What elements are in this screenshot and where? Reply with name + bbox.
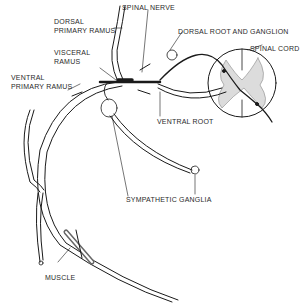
label-sympathetic-ganglia: SYMPATHETIC GANGLIA bbox=[126, 195, 212, 204]
spinal-cord-shape bbox=[208, 49, 276, 117]
label-ventral-primary-ramus-line1: VENTRAL bbox=[11, 73, 45, 82]
label-dorsal-root-ganglion: DORSAL ROOT AND GANGLION bbox=[178, 27, 289, 36]
label-visceral-ramus-line2: RAMUS bbox=[54, 57, 80, 66]
label-dorsal-primary-ramus-line1: DORSAL bbox=[54, 17, 84, 26]
spinal-nerve-diagram: SPINAL NERVE DORSAL PRIMARY RAMUS DORSAL… bbox=[0, 0, 307, 305]
label-dorsal-primary-ramus-line2: PRIMARY RAMUS bbox=[54, 26, 115, 35]
label-muscle: MUSCLE bbox=[45, 273, 75, 282]
label-spinal-cord: SPINAL CORD bbox=[250, 44, 299, 53]
label-visceral-ramus-line1: VISCERAL bbox=[54, 48, 90, 57]
label-ventral-primary-ramus-line2: PRIMARY RAMUS bbox=[11, 82, 72, 91]
label-ventral-root: VENTRAL ROOT bbox=[157, 117, 214, 126]
label-spinal-nerve: SPINAL NERVE bbox=[122, 3, 175, 12]
